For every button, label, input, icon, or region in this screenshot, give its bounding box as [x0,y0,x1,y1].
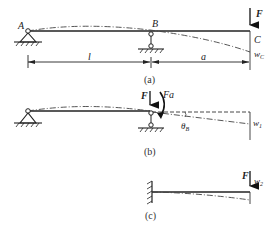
rotated-tangent [152,112,250,124]
elastic-curve [28,26,250,52]
caption-c: (c) [145,210,156,222]
roller-support-b [138,32,164,53]
elastic-curve-c [152,192,250,200]
label-a: A [17,20,25,31]
label-force-b: F [140,90,148,101]
caption-a: (a) [144,74,155,86]
label-force-c: F [241,170,249,181]
label-force-a: F [255,8,263,19]
beam-deflection-diagram: A B C F l a wC (a) [0,0,275,241]
label-theta-b: θB [181,121,189,132]
label-span-l: l [88,51,91,62]
fixed-support [147,181,152,204]
figure-b: F Fa θB w1 (b) [14,89,262,158]
label-b: B [152,18,158,29]
label-span-a: a [201,51,206,62]
label-c: C [254,34,261,45]
figure-c: F w2 (c) [145,170,263,222]
label-w2: w2 [254,176,263,187]
figure-a: A B C F l a wC (a) [14,8,265,86]
label-moment: Fa [162,89,174,100]
label-w1: w1 [253,118,262,129]
label-wc: wC [254,49,265,60]
caption-b: (b) [144,146,156,158]
dimension-lines [28,55,249,68]
